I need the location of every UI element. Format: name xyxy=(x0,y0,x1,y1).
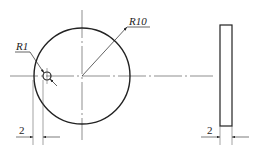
r1-leader-tail xyxy=(50,79,57,86)
technical-drawing: R10 R1 2 2 xyxy=(0,0,262,157)
front-view: R10 R1 2 xyxy=(10,10,213,145)
side-rectangle xyxy=(220,25,232,126)
offset-dim-label: 2 xyxy=(19,124,25,136)
thickness-dim-label: 2 xyxy=(207,124,213,136)
side-view: 2 xyxy=(201,25,249,145)
r10-label: R10 xyxy=(128,15,147,27)
r1-label: R1 xyxy=(15,40,28,52)
r1-leader xyxy=(30,52,44,73)
